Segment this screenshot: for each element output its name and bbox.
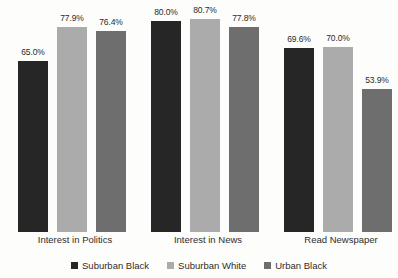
legend-item-suburban-black[interactable]: Suburban Black xyxy=(71,260,149,271)
bar-value-label: 77.8% xyxy=(232,13,256,23)
bar-group-interest-in-politics: 65.0% 77.9% 76.4% xyxy=(18,0,132,232)
bar-value-label: 70.0% xyxy=(326,33,350,43)
bar-group-interest-in-news: 80.0% 80.7% 77.8% xyxy=(151,0,265,232)
bar-value-label: 76.4% xyxy=(99,17,123,27)
legend-item-suburban-white[interactable]: Suburban White xyxy=(167,260,246,271)
category-label-newspaper: Read Newspaper xyxy=(304,234,377,245)
bar-value-label: 69.6% xyxy=(287,34,311,44)
bar-value-label: 65.0% xyxy=(21,47,45,57)
legend-swatch-icon xyxy=(71,262,78,269)
bar-suburban-white-news[interactable] xyxy=(190,19,220,232)
bar-suburban-black-newspaper[interactable] xyxy=(284,48,314,232)
chart-legend: Suburban Black Suburban White Urban Blac… xyxy=(0,256,398,274)
category-label-news: Interest in News xyxy=(174,234,242,245)
legend-swatch-icon xyxy=(264,262,271,269)
bar-value-label: 80.0% xyxy=(154,7,178,17)
category-label-politics: Interest in Politics xyxy=(38,234,112,245)
legend-label: Urban Black xyxy=(275,260,327,271)
bar-suburban-white-newspaper[interactable] xyxy=(323,47,353,232)
plot-area: 65.0% 77.9% 76.4% 80.0% 80.7% xyxy=(0,0,398,232)
bar-suburban-white-politics[interactable] xyxy=(57,27,87,232)
bar-value-label: 80.7% xyxy=(193,5,217,15)
legend-label: Suburban Black xyxy=(82,260,149,271)
category-axis: Interest in Politics Interest in News Re… xyxy=(0,234,398,254)
bar-urban-black-politics[interactable] xyxy=(96,31,126,232)
bar-suburban-black-news[interactable] xyxy=(151,21,181,232)
bar-urban-black-news[interactable] xyxy=(229,27,259,232)
legend-swatch-icon xyxy=(167,262,174,269)
bar-chart: 65.0% 77.9% 76.4% 80.0% 80.7% xyxy=(0,0,398,278)
legend-label: Suburban White xyxy=(178,260,246,271)
bar-suburban-black-politics[interactable] xyxy=(18,61,48,232)
bar-group-read-newspaper: 69.6% 70.0% 53.9% xyxy=(284,0,398,232)
bar-value-label: 53.9% xyxy=(365,75,389,85)
bar-value-label: 77.9% xyxy=(60,13,84,23)
bar-urban-black-newspaper[interactable] xyxy=(362,89,392,232)
legend-item-urban-black[interactable]: Urban Black xyxy=(264,260,327,271)
